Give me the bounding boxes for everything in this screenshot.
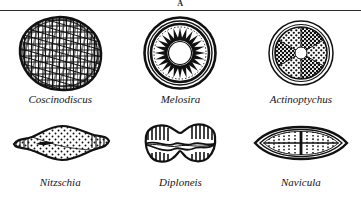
diatom-melosira-icon [134,14,226,92]
specimen-label-diploneis: Diploneis [159,176,202,189]
diatom-nitzschia-icon [6,114,114,172]
specimen-cell-nitzschia: Nitzschia [0,114,120,209]
specimen-grid: Coscinodiscus [0,14,361,209]
specimen-label-navicula: Navicula [281,176,321,189]
plate-divider-rule [0,10,361,11]
specimen-cell-actinoptychus: Actinoptychus [241,14,361,114]
diatom-coscinodiscus-icon [14,14,106,92]
specimen-label-coscinodiscus: Coscinodiscus [28,93,92,106]
specimen-label-nitzschia: Nitzschia [40,176,81,189]
diatom-actinoptychus-icon [260,14,342,92]
figure-plate: A [0,0,361,209]
specimen-cell-coscinodiscus: Coscinodiscus [0,14,120,114]
specimen-label-melosira: Melosira [161,93,201,106]
specimen-cell-navicula: Navicula [241,114,361,209]
specimen-label-actinoptychus: Actinoptychus [270,93,332,106]
diatom-navicula-icon [251,114,351,172]
specimen-cell-melosira: Melosira [120,14,240,114]
diatom-diploneis-icon [136,114,224,172]
plate-letter: A [0,0,361,8]
specimen-cell-diploneis: Diploneis [120,114,240,209]
